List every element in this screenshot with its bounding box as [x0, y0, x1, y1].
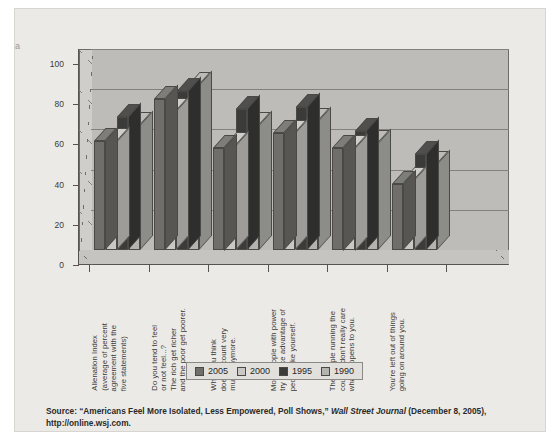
- source-italic-title: Wall Street Journal: [331, 406, 406, 416]
- bar-side-face: [105, 127, 118, 250]
- y-tick-label-80: 80: [55, 99, 64, 109]
- legend-swatch-icon: [195, 367, 204, 376]
- bar-front-face: [332, 148, 343, 251]
- y-tick-label-20: 20: [55, 220, 64, 230]
- plot-floor: [79, 250, 509, 265]
- gridline-80: [91, 89, 509, 90]
- source-note: Source: “Americans Feel More Isolated, L…: [46, 405, 516, 429]
- x-category-line: going on around you.: [397, 318, 406, 391]
- y-axis: [78, 49, 79, 265]
- x-tick-5: [387, 265, 388, 272]
- bar-2005-group-5[interactable]: [392, 184, 403, 250]
- gridline-riser-20: [78, 210, 92, 225]
- x-category-line: The rich get richer: [169, 328, 178, 391]
- y-tick-100: 100: [73, 64, 79, 65]
- margin-marker: a: [15, 39, 27, 53]
- y-tick-label-0: 0: [59, 260, 64, 270]
- legend-item-1990[interactable]: 1990: [321, 366, 354, 376]
- legend-label: 1990: [334, 366, 354, 376]
- legend-swatch-icon: [279, 367, 288, 376]
- figure-panel: a 020406080100 Alienation Index(average …: [14, 8, 546, 432]
- bar-side-face: [236, 131, 249, 250]
- bar-side-face: [343, 133, 356, 250]
- x-tick-2: [208, 265, 209, 272]
- bar-side-face: [140, 111, 153, 250]
- x-category-line: Do you tend to feel: [150, 325, 159, 391]
- x-tick-end: [446, 265, 447, 272]
- x-tick-0: [89, 265, 90, 272]
- x-category-line: people like yourself.: [288, 322, 297, 391]
- gridline-riser-100: [78, 49, 92, 64]
- x-category-line: five statements): [119, 336, 128, 391]
- x-category-line: (average of percent: [100, 323, 109, 391]
- bar-2005-group-3[interactable]: [273, 133, 284, 250]
- legend-label: 2000: [250, 366, 270, 376]
- x-tick-3: [268, 265, 269, 272]
- legend-label: 1995: [292, 366, 312, 376]
- bar-side-face: [259, 111, 272, 250]
- bar-front-face: [213, 148, 224, 251]
- bar-side-face: [284, 119, 297, 250]
- y-tick-label-40: 40: [55, 180, 64, 190]
- bar-chart: 020406080100 Alienation Index(average of…: [31, 35, 531, 365]
- y-tick-80: 80: [73, 104, 79, 105]
- bar-2005-group-2[interactable]: [213, 148, 224, 251]
- source-prefix: Source: “Americans Feel More Isolated, L…: [46, 406, 331, 416]
- plot-side-wall: [79, 49, 92, 265]
- x-category-line: Alienation Index: [90, 335, 99, 391]
- y-tick-label-100: 100: [50, 59, 64, 69]
- chart-legend: 2005200019951990: [186, 362, 363, 380]
- bar-2005-group-1[interactable]: [154, 99, 165, 250]
- legend-swatch-icon: [321, 367, 330, 376]
- bar-front-face: [154, 99, 165, 250]
- bar-side-face: [117, 127, 130, 250]
- x-category-line: agreement with the: [109, 325, 118, 391]
- bar-2005-group-0[interactable]: [94, 141, 105, 250]
- legend-item-2005[interactable]: 2005: [195, 366, 228, 376]
- x-category-line: doesn't count very: [219, 328, 228, 391]
- legend-item-1995[interactable]: 1995: [279, 366, 312, 376]
- legend-label: 2005: [208, 366, 228, 376]
- bar-front-face: [273, 133, 284, 250]
- bar-side-face: [165, 85, 178, 250]
- figure-page: a 020406080100 Alienation Index(average …: [0, 0, 558, 438]
- y-tick-40: 40: [73, 185, 79, 186]
- gridline-riser-40: [78, 170, 92, 185]
- y-tick-60: 60: [73, 144, 79, 145]
- x-tick-1: [149, 265, 150, 272]
- bar-side-face: [378, 129, 391, 250]
- bar-side-face: [307, 93, 320, 250]
- gridline-100: [91, 49, 509, 50]
- bar-front-face: [392, 184, 403, 250]
- bar-2005-group-4[interactable]: [332, 148, 343, 251]
- legend-item-2000[interactable]: 2000: [237, 366, 270, 376]
- bar-front-face: [94, 141, 105, 250]
- x-category-line: or not feel...?: [159, 345, 168, 391]
- bar-side-face: [188, 77, 201, 250]
- legend-swatch-icon: [237, 367, 246, 376]
- gridline-riser-60: [78, 129, 92, 144]
- y-tick-0: 0: [73, 265, 79, 266]
- y-tick-label-60: 60: [55, 139, 64, 149]
- bar-side-face: [355, 133, 368, 250]
- gridline-riser-80: [78, 89, 92, 104]
- plot-area: 020406080100: [79, 49, 509, 265]
- bar-side-face: [224, 133, 237, 250]
- x-category-line: You're left out of things: [388, 312, 397, 391]
- y-tick-20: 20: [73, 225, 79, 226]
- x-tick-4: [327, 265, 328, 272]
- bar-side-face: [426, 139, 439, 250]
